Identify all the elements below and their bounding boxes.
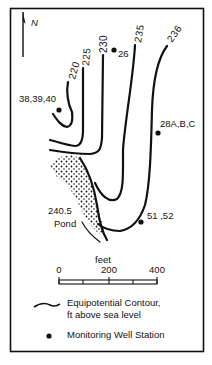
- contour-220: [53, 82, 72, 127]
- legend-well-label: Monitoring Well Station: [67, 329, 165, 340]
- pond-name-label: Pond: [54, 218, 76, 229]
- well-label-38-39-40: 38,39,40: [19, 93, 56, 104]
- well-marker-51-52: [138, 219, 143, 224]
- well-label-51-52: 51 ,52: [147, 210, 173, 221]
- legend-contour-symbol-icon: [34, 304, 60, 307]
- north-label: N: [31, 17, 38, 28]
- legend-well-symbol-icon: [46, 333, 51, 338]
- legend-contour-line2: ft above sea level: [67, 309, 141, 320]
- contour-225: [50, 68, 83, 146]
- contour-label-236: 236: [165, 23, 184, 44]
- contour-label-225: 225: [80, 47, 93, 66]
- contour-label-230: 230: [98, 35, 109, 53]
- well-marker-26: [111, 47, 116, 52]
- contour-235: [95, 45, 135, 200]
- pond-elevation-label: 240.5: [48, 205, 72, 216]
- scale-tick-0: 0: [56, 264, 61, 275]
- scale-bar: [59, 277, 157, 284]
- contour-label-235: 235: [132, 24, 146, 44]
- scale-tick-400: 400: [149, 264, 165, 275]
- well-label-26: 26: [118, 48, 129, 59]
- well-label-28abc: 28A,B,C: [160, 118, 196, 129]
- scale-tick-200: 200: [101, 264, 117, 275]
- site-map-figure: N 220 225 230 235 236 26 38,39,40 28A,B,…: [0, 0, 212, 365]
- well-marker-38-39-40: [56, 107, 61, 112]
- map-canvas: N 220 225 230 235 236 26 38,39,40 28A,B,…: [0, 0, 212, 365]
- legend-contour-line1: Equipotential Contour,: [67, 297, 160, 308]
- north-arrow-icon: [23, 12, 26, 57]
- well-marker-28abc: [155, 130, 160, 135]
